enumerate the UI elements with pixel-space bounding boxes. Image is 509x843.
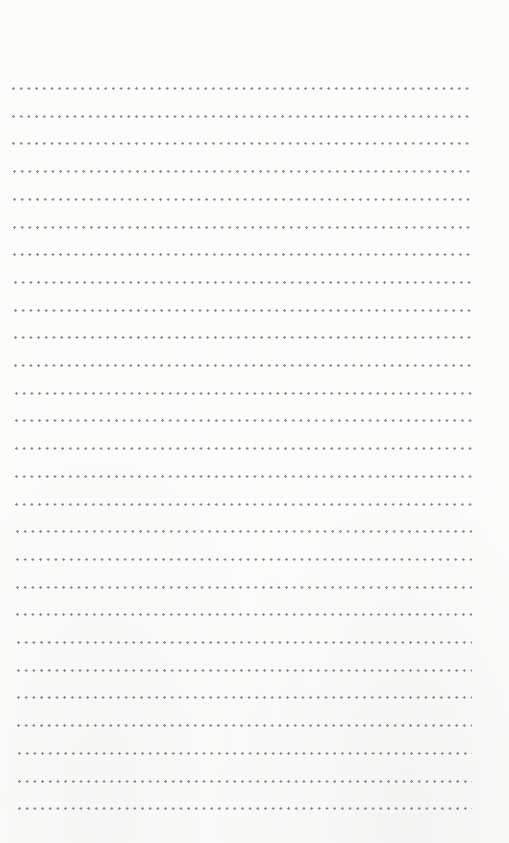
dotted-line [15,419,472,422]
dotted-line [14,336,472,339]
dotted-line [16,558,472,561]
dotted-line [12,87,472,90]
dotted-line [16,586,472,589]
dotted-line [13,170,472,173]
dotted-line [18,780,472,783]
dotted-line [12,142,472,145]
dotted-line [13,198,472,201]
dotted-line [16,530,472,533]
dotted-line [17,696,472,699]
dotted-line [18,752,472,755]
dotted-line [14,309,472,312]
dotted-line [18,807,472,810]
dotted-line [13,226,472,229]
dotted-line [15,392,472,395]
dotted-line [17,669,472,672]
dotted-line [15,475,472,478]
dotted-line [13,253,472,256]
dotted-line [15,447,472,450]
dotted-line [17,641,472,644]
dotted-line [16,613,472,616]
dotted-line [15,503,472,506]
dotted-line [12,115,472,118]
dotted-line [14,364,472,367]
paper-sheet [0,0,509,843]
dotted-line [14,281,472,284]
dotted-line [17,724,472,727]
